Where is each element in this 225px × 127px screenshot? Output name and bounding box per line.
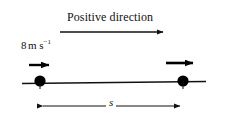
speed-value: 8: [21, 39, 27, 51]
positive-direction-label: Positive direction: [67, 11, 153, 23]
speed-exponent: −1: [44, 38, 51, 46]
speed-unit: m s: [28, 39, 44, 51]
distance-label: s: [106, 97, 116, 108]
initial-speed-label: 8m s−1: [21, 40, 51, 51]
